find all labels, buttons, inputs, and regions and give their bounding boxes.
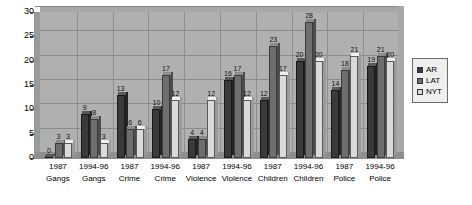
bar-value-label: 21 [345, 46, 363, 53]
x-axis-label-line1: 1987 [264, 162, 282, 171]
bar-face [162, 75, 170, 158]
y-axis-tick-label: 20 [4, 55, 34, 65]
bar-lat: 17 [234, 75, 242, 158]
bar-nyt: 12 [243, 100, 251, 158]
bar-face [350, 56, 358, 158]
x-axis-label-line1: 1987 [192, 162, 210, 171]
y-axis-tick-mark [30, 61, 34, 62]
bar-face [188, 139, 196, 158]
bar-side [323, 58, 326, 155]
bar-face [64, 143, 72, 158]
bar-top [342, 67, 350, 70]
bar-face [367, 66, 375, 158]
bar-group: 122317 [255, 12, 291, 158]
bar-group: 983 [76, 12, 112, 158]
bar-face [243, 100, 251, 158]
legend-swatch-icon [417, 78, 423, 84]
x-axis-category-label: 1987Children [255, 161, 291, 185]
bar-lat: 17 [162, 75, 170, 158]
bar-value-label: 23 [264, 36, 282, 43]
x-axis-label-line2: Gangs [76, 173, 112, 185]
y-axis-tick-mark [30, 109, 34, 110]
bar-value-label: 17 [157, 65, 175, 72]
bar-nyt: 20 [386, 61, 394, 158]
bar-top [244, 97, 252, 100]
bar-top [387, 58, 395, 61]
bar-top [91, 116, 99, 119]
bar-ar: 12 [260, 100, 268, 158]
legend: ARLATNYT [412, 58, 448, 103]
y-axis-tick-label: 15 [4, 79, 34, 89]
bar-face [207, 100, 215, 158]
x-axis: 1987Gangs1994-96Gangs1987Crime1994-96Cri… [40, 161, 398, 201]
bars-container: 0339831366101712441216171212231720282014… [40, 12, 398, 158]
x-axis-category-label: 1994-96Violence [219, 161, 255, 185]
y-axis-tick-mark [30, 12, 34, 13]
bar-face [224, 80, 232, 158]
bar-ar: 13 [117, 95, 125, 158]
bar-face [296, 61, 304, 158]
x-axis-label-line2: Children [255, 173, 291, 185]
y-axis-tick-mark [30, 36, 34, 37]
bar-group: 141821 [326, 12, 362, 158]
y-axis-tick-label: 25 [4, 30, 34, 40]
bar-value-label: 8 [85, 109, 103, 116]
gridline-horizontal [35, 6, 398, 7]
bar-face [136, 129, 144, 158]
bar-top [368, 63, 376, 66]
bar-top [261, 97, 269, 100]
bar-top [297, 58, 305, 61]
bar-top [172, 97, 180, 100]
x-axis-label-line1: 1994-96 [79, 162, 108, 171]
x-axis-label-line2: Crime [147, 173, 183, 185]
y-axis-tick-label: 5 [4, 128, 34, 138]
bar-nyt: 3 [100, 143, 108, 158]
bar-side [358, 53, 361, 155]
bar-top [56, 140, 64, 143]
bar-top [65, 140, 73, 143]
bar-face [234, 75, 242, 158]
x-axis-label-line1: 1994-96 [294, 162, 323, 171]
legend-item-lat[interactable]: LAT [417, 76, 442, 85]
bar-value-label: 6 [131, 119, 149, 126]
x-axis-label-line1: 1987 [49, 162, 67, 171]
y-axis-tick-label: 10 [4, 103, 34, 113]
x-axis-category-label: 1994-96Children [291, 161, 327, 185]
x-axis-label-line2: Police [362, 173, 398, 185]
bar-face [198, 139, 206, 158]
bar-lat: 21 [377, 56, 385, 158]
legend-swatch-icon [417, 67, 423, 73]
x-axis-label-line2: Gangs [40, 173, 76, 185]
bar-lat: 28 [305, 22, 313, 158]
bar-face [100, 143, 108, 158]
bar-side [394, 58, 397, 155]
legend-item-ar[interactable]: AR [417, 65, 442, 74]
bar-face [55, 143, 63, 158]
bar-face [269, 46, 277, 158]
legend-item-nyt[interactable]: NYT [417, 87, 442, 96]
y-axis-tick-mark [30, 134, 34, 135]
x-axis-category-label: 1994-96Police [362, 161, 398, 185]
bar-value-label: 28 [300, 12, 318, 19]
bar-top [306, 19, 314, 22]
x-axis-category-label: 1987Crime [112, 161, 148, 185]
bar-top [235, 72, 243, 75]
bar-top [199, 136, 207, 139]
bar-lat: 3 [55, 143, 63, 158]
bar-ar: 19 [367, 66, 375, 158]
x-axis-label-line2: Violence [219, 173, 255, 185]
bar-top [137, 126, 145, 129]
x-axis-category-label: 1994-96Crime [147, 161, 183, 185]
bar-group: 033 [40, 12, 76, 158]
bar-top [127, 126, 135, 129]
bar-nyt: 12 [171, 100, 179, 158]
bar-side [251, 97, 254, 155]
x-axis-label-line1: 1987 [335, 162, 353, 171]
bar-face [341, 70, 349, 158]
bar-face [331, 90, 339, 158]
x-axis-category-label: 1987Police [326, 161, 362, 185]
x-axis-category-label: 1994-96Gangs [76, 161, 112, 185]
bar-face [377, 56, 385, 158]
bar-group: 101712 [147, 12, 183, 158]
x-axis-label-line2: Violence [183, 173, 219, 185]
